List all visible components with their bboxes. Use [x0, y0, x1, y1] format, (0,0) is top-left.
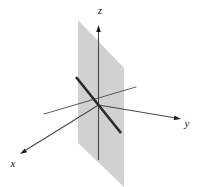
y-axis-label: y: [184, 117, 190, 129]
shaded-plane: [78, 20, 124, 187]
y-axis-arrowhead-icon: [174, 116, 181, 120]
z-axis-label: z: [97, 4, 103, 16]
coordinate-system-diagram: z y x: [0, 0, 208, 187]
figure-container: z y x: [0, 0, 208, 187]
x-axis-arrowhead-icon: [20, 148, 27, 154]
z-axis-arrowhead-icon: [96, 25, 101, 32]
x-axis-label: x: [10, 157, 16, 169]
